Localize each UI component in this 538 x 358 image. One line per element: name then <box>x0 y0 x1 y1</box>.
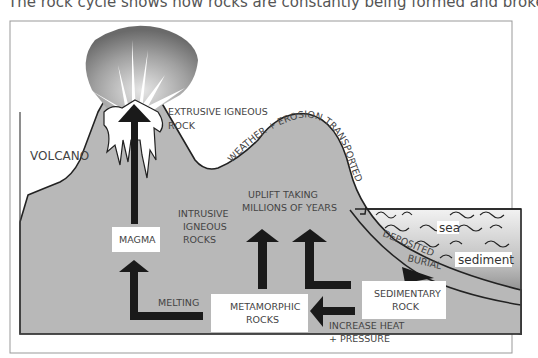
intrusive-label-3: ROCKS <box>183 234 216 245</box>
extrusive-label-1: EXTRUSIVE IGNEOUS <box>168 106 268 117</box>
magma-label: MAGMA <box>119 234 156 245</box>
sedimentary-label-1: SEDIMENTARY <box>374 288 441 299</box>
heat-label-1: INCREASE HEAT <box>329 320 405 331</box>
extrusive-label-2: ROCK <box>168 120 196 131</box>
rock-cycle-diagram: VOLCANO EXTRUSIVE IGNEOUS ROCK WEATHER +… <box>0 0 538 358</box>
metamorphic-label-1: METAMORPHIC <box>230 301 301 312</box>
sediment-label: sediment <box>458 253 514 267</box>
sea-label: sea <box>439 221 460 235</box>
uplift-label-1: UPLIFT TAKING <box>248 189 318 200</box>
volcano-label: VOLCANO <box>30 149 89 163</box>
sedimentary-label-2: ROCK <box>392 301 420 312</box>
metamorphic-label-2: ROCKS <box>246 314 279 325</box>
melting-label: MELTING <box>158 297 199 308</box>
heat-label-2: + PRESSURE <box>329 333 390 344</box>
intrusive-label-2: IGNEOUS <box>183 221 227 232</box>
sedimentary-rock-box <box>362 281 446 319</box>
metamorphic-rocks-box <box>211 294 308 332</box>
intrusive-label-1: INTRUSIVE <box>178 208 229 219</box>
uplift-label-2: MILLIONS OF YEARS <box>242 202 337 213</box>
